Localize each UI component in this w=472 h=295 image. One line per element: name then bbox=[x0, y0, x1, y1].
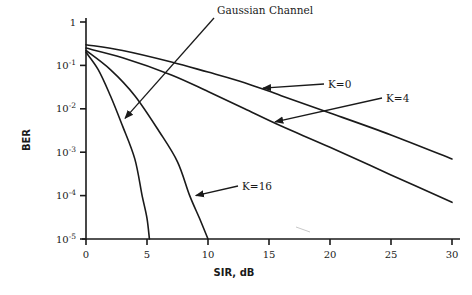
x-tick-label: 20 bbox=[324, 249, 337, 260]
annotation-arrow bbox=[263, 84, 324, 88]
x-tick-label: 5 bbox=[144, 249, 150, 260]
x-tick-label: 0 bbox=[83, 249, 89, 260]
ber-vs-sir-chart: 110-110-210-310-410-5 051015202530 Gauss… bbox=[0, 0, 472, 295]
curves bbox=[86, 45, 452, 239]
x-axis-ticks: 051015202530 bbox=[83, 239, 459, 260]
x-tick-label: 25 bbox=[385, 249, 398, 260]
scan-artifact bbox=[296, 227, 310, 232]
annotation-arrow bbox=[275, 98, 382, 122]
curve-k-16 bbox=[86, 51, 208, 240]
x-tick-label: 30 bbox=[446, 249, 459, 260]
x-tick-label: 10 bbox=[202, 249, 215, 260]
annotation-label: K=4 bbox=[386, 92, 410, 104]
y-tick-label: 10-2 bbox=[56, 101, 76, 114]
annotation-label: K=16 bbox=[242, 180, 272, 192]
annotation-arrow bbox=[125, 18, 214, 118]
y-tick-label: 10-5 bbox=[56, 232, 76, 245]
annotation-label: K=0 bbox=[328, 78, 351, 90]
x-axis-label: SIR, dB bbox=[214, 267, 255, 278]
y-tick-label: 10-4 bbox=[56, 188, 76, 201]
annotation-label: Gaussian Channel bbox=[217, 4, 314, 16]
x-tick-label: 15 bbox=[263, 249, 276, 260]
y-axis-label: BER bbox=[21, 129, 32, 151]
y-tick-label: 1 bbox=[70, 17, 76, 28]
y-tick-label: 10-3 bbox=[56, 145, 76, 158]
y-tick-label: 10-1 bbox=[56, 58, 76, 71]
annotation-arrow bbox=[196, 186, 238, 196]
y-axis-ticks: 110-110-210-310-410-5 bbox=[56, 17, 86, 245]
curve-gaussian-channel bbox=[86, 52, 149, 239]
annotations: Gaussian ChannelK=0K=4K=16 bbox=[125, 4, 410, 196]
